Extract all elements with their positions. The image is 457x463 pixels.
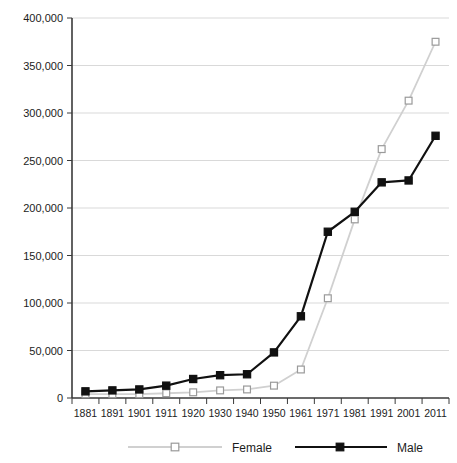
data-point-marker <box>163 390 170 397</box>
legend-item-female[interactable]: Female <box>128 441 272 455</box>
series-female <box>82 38 439 397</box>
series-line <box>85 42 435 394</box>
data-point-marker <box>190 375 197 382</box>
x-tick-label: 1891 <box>101 407 125 419</box>
data-point-marker <box>270 349 277 356</box>
y-tick-label: 50,000 <box>29 345 63 357</box>
y-tick-label: 200,000 <box>23 202 63 214</box>
x-tick-label: 1971 <box>316 407 340 419</box>
x-tick-label: 1901 <box>128 407 152 419</box>
census-population-line-chart: 050,000100,000150,000200,000250,000300,0… <box>0 0 457 463</box>
data-point-marker <box>378 146 385 153</box>
data-point-marker <box>244 386 251 393</box>
legend-label: Male <box>397 441 423 455</box>
data-point-marker <box>432 132 439 139</box>
y-axis-tick-labels: 050,000100,000150,000200,000250,000300,0… <box>23 12 63 404</box>
data-series <box>82 38 439 397</box>
data-point-marker <box>82 388 89 395</box>
x-tick-label: 1981 <box>343 407 367 419</box>
series-line <box>85 136 435 392</box>
x-tick-label: 2011 <box>424 407 447 419</box>
x-tick-label: 1930 <box>208 407 232 419</box>
data-point-marker <box>217 387 224 394</box>
y-tick-label: 0 <box>57 392 63 404</box>
data-point-marker <box>109 387 116 394</box>
data-point-marker <box>324 228 331 235</box>
data-point-marker <box>351 216 358 223</box>
x-axis <box>72 398 449 404</box>
y-tick-label: 150,000 <box>23 250 63 262</box>
x-tick-label: 1881 <box>74 407 98 419</box>
gridlines <box>72 18 449 351</box>
y-tick-label: 250,000 <box>23 155 63 167</box>
x-tick-label: 1961 <box>289 407 313 419</box>
legend-item-male[interactable]: Male <box>295 441 423 455</box>
y-tick-label: 400,000 <box>23 12 63 24</box>
x-tick-label: 1950 <box>262 407 286 419</box>
x-axis-tick-labels: 1881189119011911192019301940195019611971… <box>74 407 447 419</box>
data-point-marker <box>190 389 197 396</box>
data-point-marker <box>297 366 304 373</box>
x-tick-label: 1940 <box>235 407 259 419</box>
data-point-marker <box>432 38 439 45</box>
chart-canvas: 050,000100,000150,000200,000250,000300,0… <box>0 0 457 463</box>
legend-label: Female <box>232 441 272 455</box>
data-point-marker <box>217 372 224 379</box>
data-point-marker <box>297 313 304 320</box>
legend-marker-swatch <box>171 443 179 451</box>
y-tick-label: 100,000 <box>23 297 63 309</box>
y-axis <box>67 18 72 398</box>
chart-legend: FemaleMale <box>128 441 423 455</box>
y-tick-label: 300,000 <box>23 107 63 119</box>
y-tick-label: 350,000 <box>23 60 63 72</box>
data-point-marker <box>351 208 358 215</box>
x-tick-label: 1920 <box>181 407 205 419</box>
x-tick-label: 2001 <box>397 407 421 419</box>
data-point-marker <box>378 179 385 186</box>
data-point-marker <box>405 177 412 184</box>
x-tick-label: 1911 <box>155 407 178 419</box>
data-point-marker <box>324 295 331 302</box>
data-point-marker <box>243 371 250 378</box>
data-point-marker <box>271 382 278 389</box>
legend-marker-swatch <box>336 443 344 451</box>
series-male <box>82 132 439 395</box>
data-point-marker <box>136 386 143 393</box>
x-tick-label: 1991 <box>370 407 394 419</box>
data-point-marker <box>163 382 170 389</box>
data-point-marker <box>405 97 412 104</box>
